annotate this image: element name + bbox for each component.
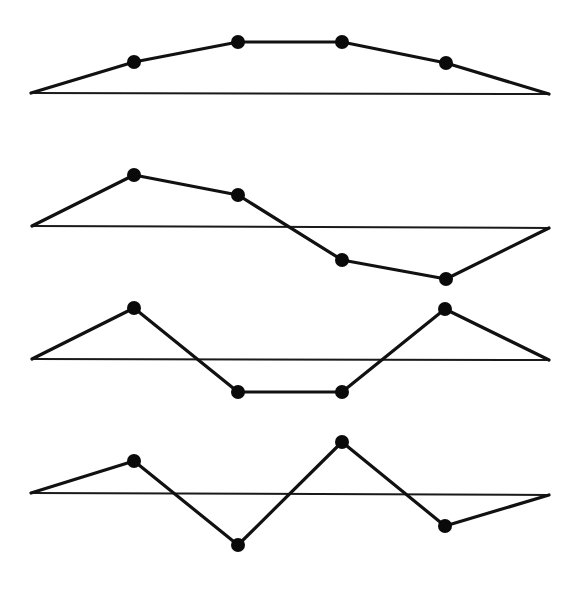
equilibrium-baseline <box>31 93 549 94</box>
mass-dot <box>231 538 245 552</box>
mode-1-panel <box>31 35 549 94</box>
equilibrium-baseline <box>32 359 549 360</box>
mass-dot <box>335 435 349 449</box>
mass-dot <box>439 56 453 70</box>
mass-dot <box>127 301 141 315</box>
mass-dot <box>231 35 245 49</box>
mass-dot <box>439 272 453 286</box>
mass-dot <box>127 168 141 182</box>
mass-dot <box>335 385 349 399</box>
mass-dot <box>231 385 245 399</box>
mass-dot <box>231 188 245 202</box>
displacement-line <box>32 308 549 392</box>
mass-dot <box>335 35 349 49</box>
mode-4-panel <box>31 435 549 552</box>
mass-dot <box>127 454 141 468</box>
mass-dot <box>127 55 141 69</box>
mass-dot <box>335 253 349 267</box>
mode-2-panel <box>32 168 549 286</box>
displacement-line <box>31 42 549 94</box>
mode-3-panel <box>32 301 549 399</box>
mode-shapes-diagram <box>0 0 584 592</box>
mass-dot <box>438 519 452 533</box>
mass-dot <box>438 302 452 316</box>
